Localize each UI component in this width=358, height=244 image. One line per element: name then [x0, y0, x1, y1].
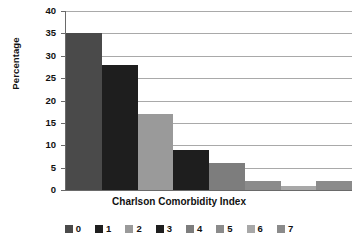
legend-label: 7 [288, 224, 293, 234]
legend-item-4[interactable]: 4 [186, 224, 202, 234]
bar-7 [316, 181, 352, 190]
plot-area [66, 11, 352, 190]
y-axis-tick-label: 15 [16, 118, 56, 128]
bar-2 [138, 114, 174, 190]
legend-swatch-icon [156, 225, 164, 233]
bar-6 [281, 186, 317, 190]
legend-swatch-icon [277, 225, 285, 233]
y-axis-tick-label: 35 [16, 28, 56, 38]
legend-swatch-icon [125, 225, 133, 233]
legend-item-7[interactable]: 7 [277, 224, 293, 234]
y-axis-tick-label: 40 [16, 6, 56, 16]
legend: 01234567 [0, 224, 358, 234]
legend-swatch-icon [65, 225, 73, 233]
gridline [66, 190, 352, 191]
gridline [66, 33, 352, 34]
legend-label: 6 [258, 224, 263, 234]
y-axis-tick-label: 25 [16, 73, 56, 83]
legend-label: 2 [136, 224, 141, 234]
legend-item-0[interactable]: 0 [65, 224, 81, 234]
y-axis-tick-label: 5 [16, 163, 56, 173]
legend-item-6[interactable]: 6 [247, 224, 263, 234]
y-axis-tick-label: 0 [16, 185, 56, 195]
gridline [66, 11, 352, 12]
y-axis-tick-label: 20 [16, 96, 56, 106]
bar-5 [245, 181, 281, 190]
legend-label: 4 [197, 224, 202, 234]
legend-item-3[interactable]: 3 [156, 224, 172, 234]
y-axis-tick-label: 10 [16, 140, 56, 150]
bar-3 [173, 150, 209, 190]
legend-swatch-icon [95, 225, 103, 233]
bar-chart-figure: Percentage 0510152025303540 Charlson Com… [0, 0, 358, 244]
legend-label: 5 [227, 224, 232, 234]
legend-item-2[interactable]: 2 [125, 224, 141, 234]
legend-swatch-icon [247, 225, 255, 233]
bar-4 [209, 163, 245, 190]
legend-item-1[interactable]: 1 [95, 224, 111, 234]
legend-item-5[interactable]: 5 [216, 224, 232, 234]
gridline [66, 56, 352, 57]
bar-0 [66, 33, 102, 190]
legend-swatch-icon [186, 225, 194, 233]
legend-swatch-icon [216, 225, 224, 233]
legend-label: 0 [76, 224, 81, 234]
bar-1 [102, 65, 138, 190]
x-axis-title: Charlson Comorbidity Index [0, 196, 358, 207]
legend-label: 1 [106, 224, 111, 234]
legend-label: 3 [167, 224, 172, 234]
y-axis-tick-label: 30 [16, 51, 56, 61]
